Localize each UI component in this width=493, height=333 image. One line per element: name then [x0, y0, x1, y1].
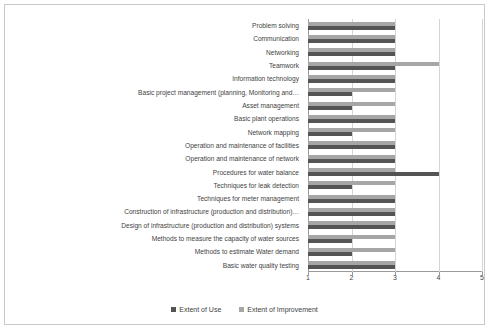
chart-frame: Problem solvingCommunicationNetworkingTe… [4, 4, 485, 325]
bar-extent-of-use [308, 265, 395, 269]
bar-extent-of-use [308, 119, 395, 123]
bar-extent-of-use [308, 145, 395, 149]
bar-extent-of-use [308, 106, 352, 110]
value-axis-tick-label: 4 [437, 274, 441, 281]
category-label: Basic water quality testing [223, 262, 299, 269]
category-label: Information technology [232, 75, 299, 82]
value-axis-tick-label: 1 [306, 274, 310, 281]
bar-extent-of-use [308, 39, 395, 43]
bar-extent-of-use [308, 172, 439, 176]
bar-extent-of-improvement [308, 22, 395, 26]
bar-group [308, 232, 482, 245]
category-label: Methods to estimate Water demand [195, 248, 299, 255]
bar-extent-of-use [308, 199, 395, 203]
chart-legend: Extent of UseExtent of Improvement [5, 302, 484, 316]
bar-extent-of-use [308, 212, 395, 216]
legend-swatch-icon [239, 307, 244, 312]
category-label: Techniques for leak detection [214, 182, 299, 189]
bar-group [308, 219, 482, 232]
category-label: Operation and maintenance of facilities [185, 142, 299, 149]
bar-extent-of-improvement [308, 221, 395, 225]
bar-chart: Problem solvingCommunicationNetworkingTe… [5, 5, 484, 324]
category-label: Methods to measure the capacity of water… [152, 235, 299, 242]
gridline [482, 19, 483, 272]
category-label: Communication [253, 35, 299, 42]
bar-group [308, 205, 482, 218]
bar-extent-of-improvement [308, 115, 395, 119]
bar-extent-of-improvement [308, 168, 395, 172]
bar-group [308, 99, 482, 112]
bar-extent-of-improvement [308, 48, 395, 52]
category-label: Networking [266, 49, 299, 56]
bar-extent-of-use [308, 239, 352, 243]
bar-extent-of-improvement [308, 181, 395, 185]
value-axis-tick-label: 3 [393, 274, 397, 281]
bar-group [308, 72, 482, 85]
bar-group [308, 259, 482, 272]
value-axis-tick-labels: 12345 [308, 274, 482, 286]
bar-extent-of-use [308, 159, 395, 163]
category-label: Operation and maintenance of network [185, 155, 299, 162]
plot-area [308, 19, 482, 272]
bar-extent-of-improvement [308, 62, 439, 66]
bar-extent-of-use [308, 225, 395, 229]
bar-extent-of-improvement [308, 75, 395, 79]
category-label: Asset management [242, 102, 299, 109]
bar-extent-of-use [308, 26, 395, 30]
category-axis-labels: Problem solvingCommunicationNetworkingTe… [7, 19, 303, 272]
category-label: Construction of infrastructure (producti… [124, 208, 299, 215]
bar-extent-of-improvement [308, 261, 395, 265]
bar-extent-of-use [308, 185, 352, 189]
category-label: Network mapping [248, 129, 299, 136]
legend-swatch-icon [171, 307, 176, 312]
category-label: Basic project management (planning, Moni… [138, 89, 299, 96]
bar-extent-of-improvement [308, 128, 395, 132]
bar-extent-of-improvement [308, 208, 395, 212]
bar-extent-of-improvement [308, 235, 395, 239]
bar-group [308, 179, 482, 192]
category-label: Design of infrastructure (production and… [121, 222, 299, 229]
legend-item: Extent of Use [171, 306, 221, 313]
legend-label: Extent of Use [179, 306, 221, 313]
value-axis-tick-label: 2 [350, 274, 354, 281]
bar-extent-of-improvement [308, 88, 395, 92]
bar-extent-of-use [308, 79, 395, 83]
bar-extent-of-use [308, 66, 395, 70]
legend-item: Extent of Improvement [239, 306, 317, 313]
value-axis-tick-label: 5 [480, 274, 484, 281]
bar-extent-of-improvement [308, 141, 395, 145]
category-label: Techniques for meter management [197, 195, 299, 202]
bar-extent-of-use [308, 52, 395, 56]
bar-group [308, 126, 482, 139]
category-label: Problem solving [252, 22, 299, 29]
legend-label: Extent of Improvement [247, 306, 317, 313]
category-label: Procedures for water balance [213, 169, 299, 176]
bar-group [308, 46, 482, 59]
category-label: Teamwork [269, 62, 299, 69]
bar-group [308, 19, 482, 32]
bar-group [308, 112, 482, 125]
bar-extent-of-use [308, 132, 352, 136]
bar-group [308, 139, 482, 152]
bar-extent-of-improvement [308, 248, 395, 252]
bar-group [308, 86, 482, 99]
bar-group [308, 32, 482, 45]
category-label: Basic plant operations [234, 115, 299, 122]
bar-group [308, 245, 482, 258]
bar-extent-of-improvement [308, 155, 395, 159]
bar-extent-of-improvement [308, 35, 395, 39]
bar-extent-of-use [308, 252, 352, 256]
bar-group [308, 165, 482, 178]
bar-group [308, 192, 482, 205]
bar-extent-of-use [308, 92, 352, 96]
bar-extent-of-improvement [308, 195, 395, 199]
bar-group [308, 59, 482, 72]
bar-group [308, 152, 482, 165]
bar-extent-of-improvement [308, 102, 395, 106]
